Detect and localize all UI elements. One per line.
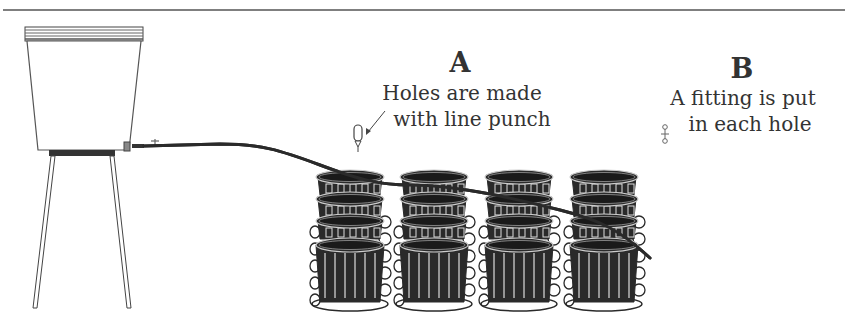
- punch-pointer-arrow: [368, 111, 385, 132]
- barbed-fitting-icon: [661, 125, 669, 144]
- stand-leg-right: [110, 156, 131, 308]
- pot: [316, 245, 384, 302]
- pot-column: [394, 170, 475, 311]
- step-a-caption-line2: with line punch: [388, 106, 556, 132]
- bucket-body: [27, 41, 141, 150]
- bucket-stand: [33, 150, 131, 308]
- step-a-heading: A: [430, 48, 490, 78]
- pot: [570, 245, 638, 302]
- pot: [485, 245, 553, 302]
- pot-column: [564, 170, 645, 311]
- step-a-caption-line1: Holes are made: [372, 80, 552, 106]
- stand-top: [49, 150, 115, 156]
- line-punch-icon: [354, 111, 385, 152]
- irrigation-diagram: [0, 0, 848, 327]
- step-b-caption-line1: A fitting is put: [661, 85, 825, 111]
- pot-column: [479, 170, 560, 311]
- step-b-heading: B: [717, 54, 767, 84]
- pot-column: [310, 170, 391, 311]
- step-b-caption-line2: in each hole: [680, 111, 820, 137]
- bucket-reservoir: [25, 27, 143, 151]
- pot: [400, 245, 468, 302]
- stand-leg-left: [33, 156, 55, 308]
- bucket-outlet: [124, 142, 130, 151]
